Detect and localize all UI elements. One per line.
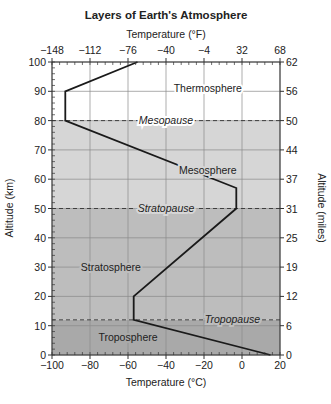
layer-label-mesosphere: Mesosphere xyxy=(179,164,237,176)
x-tick-label: −20 xyxy=(195,359,213,371)
y2-tick-label: 19 xyxy=(286,261,298,273)
x2-tick-label: −112 xyxy=(79,44,102,56)
layer-label-stratosphere: Stratosphere xyxy=(81,261,141,273)
y-tick-label: 90 xyxy=(34,85,46,97)
layer-label-troposphere: Troposphere xyxy=(98,331,157,343)
atmosphere-chart: TropopauseStratopauseMesopause Troposphe… xyxy=(0,0,331,404)
boundary-label-stratopause: Stratopause xyxy=(138,202,195,214)
y-tick-label: 60 xyxy=(34,173,46,185)
y2-tick-label: 25 xyxy=(286,232,298,244)
x-tick-label: 0 xyxy=(239,359,245,371)
x2-tick-label: −148 xyxy=(40,44,64,56)
x2-tick-label: 68 xyxy=(274,44,286,56)
layer-label-thermosphere: Thermosphere xyxy=(174,82,242,94)
y2-tick-label: 6 xyxy=(286,320,292,332)
y-tick-label: 0 xyxy=(40,349,46,361)
y-tick-label: 40 xyxy=(34,232,46,244)
top-axis-label: Temperature (°F) xyxy=(126,28,205,40)
x-tick-label: 20 xyxy=(274,359,286,371)
y2-tick-label: 37 xyxy=(286,173,298,185)
y2-tick-label: 44 xyxy=(286,144,298,156)
boundary-label-tropopause: Tropopause xyxy=(205,313,260,325)
chart-title: Layers of Earth's Atmosphere xyxy=(85,9,248,21)
x-tick-label: −80 xyxy=(81,359,99,371)
right-axis-label: Altitude (miles) xyxy=(316,173,328,242)
y2-tick-label: 50 xyxy=(286,115,298,127)
y2-tick-label: 12 xyxy=(286,290,298,302)
x2-tick-label: −4 xyxy=(198,44,210,56)
x-tick-label: −60 xyxy=(119,359,137,371)
x2-tick-label: −76 xyxy=(119,44,137,56)
y-tick-label: 70 xyxy=(34,144,46,156)
y2-tick-label: 31 xyxy=(286,203,298,215)
x2-tick-label: −40 xyxy=(157,44,175,56)
x2-tick-label: 32 xyxy=(236,44,248,56)
y-tick-label: 10 xyxy=(34,320,46,332)
y2-tick-label: 62 xyxy=(286,56,298,68)
x-tick-label: −40 xyxy=(157,359,175,371)
y-tick-label: 50 xyxy=(34,203,46,215)
boundary-label-mesopause: Mesopause xyxy=(139,114,193,126)
bottom-axis-label: Temperature (°C) xyxy=(126,376,207,388)
y-tick-label: 30 xyxy=(34,261,46,273)
y-tick-label: 20 xyxy=(34,290,46,302)
y2-tick-label: 0 xyxy=(286,349,292,361)
y2-tick-label: 56 xyxy=(286,85,298,97)
y-tick-label: 100 xyxy=(28,56,46,68)
left-axis-label: Altitude (km) xyxy=(3,179,15,238)
y-tick-label: 80 xyxy=(34,115,46,127)
